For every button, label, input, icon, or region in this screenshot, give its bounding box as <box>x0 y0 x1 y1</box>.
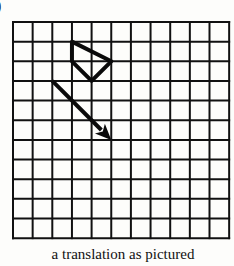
arrow-shaft <box>52 81 101 130</box>
grid-lines <box>12 21 230 239</box>
translation-arrow <box>52 81 111 140</box>
grid-figure <box>0 0 234 246</box>
figure-caption: a translation as pictured <box>0 245 234 263</box>
